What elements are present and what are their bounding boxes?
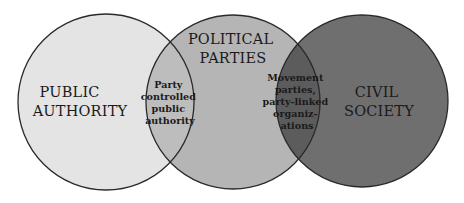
venn-diagram: PUBLIC AUTHORITY POLITICAL PARTIES CIVIL…	[0, 0, 464, 203]
